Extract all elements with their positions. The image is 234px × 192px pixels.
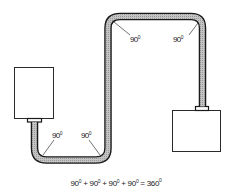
bend-label-bottom-left: 900 [52,130,63,140]
leader-top-left [114,22,130,35]
equation: 900 + 900 + 900 + 900 = 3600 [70,177,162,188]
leader-bottom-left [43,140,54,155]
bend-label-bottom-right: 900 [81,130,92,140]
left-connector [28,119,42,123]
leader-bottom-right [89,140,100,155]
right-connector [196,107,209,111]
bend-label-top-left: 900 [130,34,141,44]
pipe-bend-diagram: 900 900 900 900 900 + 900 + 900 + 900 = … [0,0,234,192]
left-box [15,68,54,119]
bend-label-top-right: 900 [173,34,184,44]
right-box [173,111,221,152]
leader-top-right [189,23,198,35]
